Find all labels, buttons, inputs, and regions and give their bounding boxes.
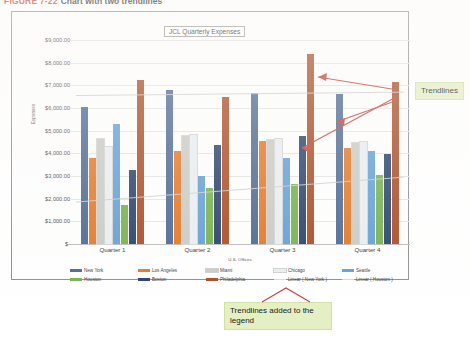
legend-item[interactable]: Linear ( Houston ) xyxy=(342,275,410,284)
bar-group xyxy=(155,40,240,244)
y-axis-tick: $4,000.00 xyxy=(45,150,70,156)
bar[interactable] xyxy=(336,94,343,244)
legend-label: Boston xyxy=(152,277,166,282)
figure-caption: FIGURE 7-22Chart with two trendlines xyxy=(4,0,304,6)
legend-swatch xyxy=(70,278,82,281)
legend-item[interactable]: Los Angeles xyxy=(138,266,206,275)
y-axis-labels: $9,000.00$8,000.00$7,000.00$6,000.00$5,0… xyxy=(26,34,70,250)
legend-item[interactable]: Houston xyxy=(70,275,138,284)
bar[interactable] xyxy=(198,176,205,244)
legend-label: Linear ( New York ) xyxy=(288,277,327,282)
bar[interactable] xyxy=(307,54,314,244)
bar[interactable] xyxy=(182,136,189,244)
bar[interactable] xyxy=(352,143,359,244)
bar[interactable] xyxy=(222,97,229,244)
legend-swatch xyxy=(70,269,82,272)
bar[interactable] xyxy=(97,139,104,244)
bar[interactable] xyxy=(376,175,383,244)
bar[interactable] xyxy=(190,135,197,244)
bar[interactable] xyxy=(251,93,258,244)
legend-item[interactable]: Seattle xyxy=(342,266,410,275)
y-axis-tick: $3,000.00 xyxy=(45,173,70,179)
bar[interactable] xyxy=(267,140,274,244)
x-axis-tick: Quarter 1 xyxy=(70,246,155,253)
bar-group xyxy=(240,40,325,244)
bar[interactable] xyxy=(121,205,128,244)
legend-item[interactable]: Philadelphia xyxy=(206,275,274,284)
x-axis-tick: Quarter 4 xyxy=(325,246,410,253)
x-axis-tick: Quarter 3 xyxy=(240,246,325,253)
bar[interactable] xyxy=(283,158,290,244)
y-axis-tick: $9,000.00 xyxy=(45,37,70,43)
legend-label: Chicago xyxy=(288,268,305,273)
legend-swatch xyxy=(274,279,286,281)
bar[interactable] xyxy=(344,148,351,244)
y-axis-tick: $1,000.00 xyxy=(45,218,70,224)
bar[interactable] xyxy=(275,139,282,244)
x-axis-title: U.S. Offices xyxy=(70,257,410,262)
bar[interactable] xyxy=(166,90,173,244)
legend-swatch xyxy=(274,269,286,272)
bar[interactable] xyxy=(291,184,298,244)
y-axis-tick: $2,000.00 xyxy=(45,196,70,202)
legend-item[interactable]: Linear ( New York ) xyxy=(274,275,342,284)
bar[interactable] xyxy=(81,107,88,244)
bar[interactable] xyxy=(360,142,367,244)
legend-swatch xyxy=(138,278,150,281)
legend-swatch xyxy=(206,269,218,272)
bar[interactable] xyxy=(299,136,306,244)
x-axis-labels: Quarter 1Quarter 2Quarter 3Quarter 4 xyxy=(70,246,410,253)
bar[interactable] xyxy=(384,154,391,244)
bar-group xyxy=(325,40,410,244)
y-axis-tick: $5,000.00 xyxy=(45,128,70,134)
figure-caption-text: Chart with two trendlines xyxy=(61,0,163,6)
legend-label: Linear ( Houston ) xyxy=(356,277,393,282)
legend-label: New York xyxy=(84,268,103,273)
legend-swatch xyxy=(206,278,218,281)
chart-frame: JCL Quarterly Expenses Expenses $9,000.0… xyxy=(11,11,409,280)
bar-groups xyxy=(70,40,410,244)
legend-swatch xyxy=(342,269,354,272)
legend-item[interactable]: Boston xyxy=(138,275,206,284)
y-axis-tick: $7,000.00 xyxy=(45,82,70,88)
bar[interactable] xyxy=(174,151,181,244)
legend-item[interactable]: New York xyxy=(70,266,138,275)
bar[interactable] xyxy=(137,80,144,244)
bar[interactable] xyxy=(129,170,136,244)
chart-title: JCL Quarterly Expenses xyxy=(164,26,245,37)
bar-group xyxy=(70,40,155,244)
bar[interactable] xyxy=(113,124,120,244)
x-axis-tick: Quarter 2 xyxy=(155,246,240,253)
legend-item[interactable]: Chicago xyxy=(274,266,342,275)
figure-number: FIGURE 7-22 xyxy=(4,0,58,6)
legend-item[interactable]: Miami xyxy=(206,266,274,275)
legend-label: Philadelphia xyxy=(220,277,245,282)
legend-label: Houston xyxy=(84,277,101,282)
legend-swatch xyxy=(138,269,150,272)
callout-legend-note: Trendlines added to the legend xyxy=(224,302,332,330)
bar[interactable] xyxy=(214,145,221,244)
bar[interactable] xyxy=(368,151,375,244)
legend-label: Los Angeles xyxy=(152,268,177,273)
bar[interactable] xyxy=(392,82,399,244)
bar[interactable] xyxy=(89,158,96,244)
bar[interactable] xyxy=(105,147,112,244)
y-axis-tick: $6,000.00 xyxy=(45,105,70,111)
bar[interactable] xyxy=(206,188,213,244)
bar[interactable] xyxy=(259,141,266,244)
legend-swatch xyxy=(342,279,354,281)
legend-label: Miami xyxy=(220,268,232,273)
plot-area xyxy=(70,40,410,244)
gridline xyxy=(70,244,410,245)
chart-legend: New YorkLos AngelesMiamiChicagoSeattleHo… xyxy=(70,266,410,284)
callout-trendlines: Trendlines xyxy=(415,82,464,100)
legend-label: Seattle xyxy=(356,268,370,273)
y-axis-tick: $8,000.00 xyxy=(45,60,70,66)
